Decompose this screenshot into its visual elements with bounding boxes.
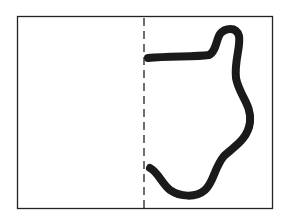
diagram-frame [18, 17, 273, 209]
diagram-canvas [0, 0, 285, 217]
freehand-curve [148, 29, 250, 196]
